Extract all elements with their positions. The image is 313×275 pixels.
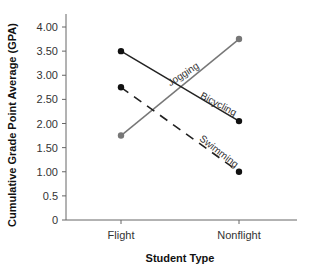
y-tick-label: 3.00 bbox=[37, 69, 58, 81]
x-category-flight: Flight bbox=[108, 229, 135, 241]
series-jogging bbox=[118, 36, 242, 139]
y-axis-title: Cumulative Grade Point Average (GPA) bbox=[6, 23, 18, 227]
series-bicycling bbox=[118, 48, 242, 124]
y-tick-label: 0 bbox=[52, 214, 58, 226]
x-category-nonflight: Nonflight bbox=[217, 229, 260, 241]
series-label-bicycling: Bicycling bbox=[199, 90, 239, 118]
series-line bbox=[121, 39, 239, 136]
gpa-line-chart: Cumulative Grade Point Average (GPA) 00.… bbox=[0, 0, 313, 275]
y-tick-label: 0.5 bbox=[43, 190, 58, 202]
series-label-swimming: Swimming bbox=[198, 133, 241, 170]
y-tick-label: 2.00 bbox=[37, 118, 58, 130]
y-tick-label: 1.00 bbox=[37, 166, 58, 178]
data-point-marker bbox=[118, 48, 124, 54]
y-tick-label: 3.50 bbox=[37, 45, 58, 57]
x-axis-title: Student Type bbox=[146, 252, 215, 264]
data-point-marker bbox=[236, 36, 242, 42]
y-tick-label: 1.50 bbox=[37, 142, 58, 154]
data-point-marker bbox=[118, 132, 124, 138]
data-point-marker bbox=[118, 84, 124, 90]
y-axis-ticks: 00.51.001.502.002.503.003.504.00 bbox=[37, 21, 66, 226]
data-point-marker bbox=[236, 169, 242, 175]
y-tick-label: 4.00 bbox=[37, 21, 58, 33]
y-tick-label: 2.50 bbox=[37, 93, 58, 105]
data-point-marker bbox=[236, 118, 242, 124]
